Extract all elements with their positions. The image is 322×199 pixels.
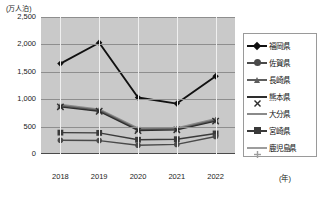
gridline-vertical: [138, 17, 139, 154]
y-axis-tick-label: 0: [26, 149, 36, 158]
legend-item-3[interactable]: 熊本県: [247, 88, 314, 105]
gridline-vertical: [60, 17, 61, 154]
legend-marker-icon: [247, 108, 267, 119]
legend-item-1[interactable]: 佐賀県: [247, 54, 314, 71]
legend-item-5[interactable]: 宮崎県: [247, 122, 314, 139]
y-axis-tick-label: 2,000: [2, 39, 36, 48]
legend-label: 長崎県: [267, 74, 289, 85]
y-axis-tick-label: 2,500: [2, 12, 36, 21]
y-axis-tick-label: 500: [2, 122, 36, 131]
gridline-vertical: [177, 17, 178, 154]
x-axis-tick-label: 2020: [121, 172, 155, 181]
gridline-vertical: [99, 17, 100, 154]
legend-label: 熊本県: [267, 91, 289, 102]
x-axis-tick-label: 2019: [82, 172, 116, 181]
legend-item-2[interactable]: 長崎県: [247, 71, 314, 88]
legend-marker-icon: [247, 125, 267, 136]
x-axis-tick-label: 2018: [43, 172, 77, 181]
y-axis-tick-label: 1,000: [2, 94, 36, 103]
legend-marker-icon: [247, 91, 267, 102]
chart-container: (万人泊) (年) 05001,0001,5002,0002,500 20182…: [0, 0, 322, 199]
legend-label: 宮崎県: [267, 125, 289, 136]
legend-item-6[interactable]: 鹿児島県: [247, 139, 314, 156]
chart-legend: 福岡県佐賀県長崎県熊本県大分県宮崎県鹿児島県: [243, 33, 317, 157]
legend-marker-icon: [247, 40, 267, 51]
legend-label: 福岡県: [267, 40, 289, 51]
gridline-vertical: [216, 17, 217, 154]
legend-label: 大分県: [267, 108, 289, 119]
legend-marker-icon: [247, 74, 267, 85]
legend-label: 佐賀県: [267, 57, 289, 68]
x-axis-unit-label: (年): [279, 172, 291, 183]
legend-label: 鹿児島県: [267, 142, 296, 153]
legend-marker-icon: [247, 142, 267, 153]
y-axis-tick-label: 1,500: [2, 67, 36, 76]
plot-area: [41, 17, 235, 154]
x-axis-tick-label: 2022: [199, 172, 233, 181]
legend-item-0[interactable]: 福岡県: [247, 37, 314, 54]
x-axis-tick-label: 2021: [160, 172, 194, 181]
legend-item-4[interactable]: 大分県: [247, 105, 314, 122]
legend-marker-icon: [247, 57, 267, 68]
